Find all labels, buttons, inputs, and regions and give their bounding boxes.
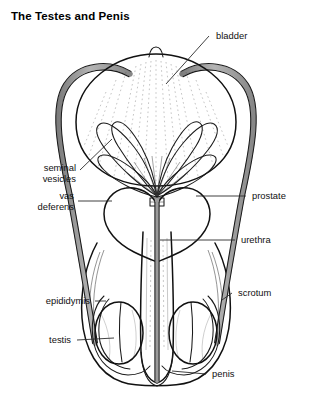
- anatomy-figure: The Testes and Penis: [0, 0, 313, 403]
- label-vas-deferens-line2: deferens: [38, 201, 75, 212]
- label-epididymis: epididymis: [46, 295, 91, 306]
- urethra-shape: [155, 200, 159, 381]
- label-seminal-vesicles-line2: vesicles: [43, 173, 77, 184]
- label-prostate: prostate: [252, 190, 286, 201]
- leader-penis: [172, 371, 206, 374]
- anatomy-diagram: bladder seminal vesicles vas deferens pr…: [0, 0, 313, 403]
- label-bladder: bladder: [216, 30, 247, 41]
- label-penis: penis: [212, 368, 235, 379]
- label-urethra: urethra: [241, 234, 271, 245]
- label-scrotum: scrotum: [238, 287, 272, 298]
- label-seminal-vesicles-line1: seminal: [44, 162, 76, 173]
- label-testis: testis: [49, 334, 71, 345]
- label-vas-deferens-line1: vas: [59, 190, 74, 201]
